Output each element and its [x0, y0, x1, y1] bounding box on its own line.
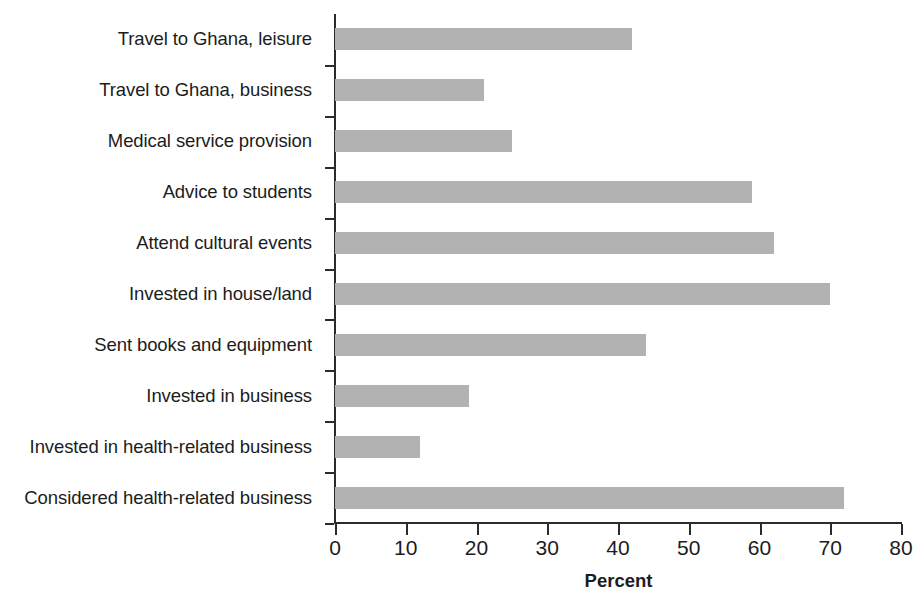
y-axis-tick: [325, 269, 334, 271]
bar: [335, 487, 844, 509]
bar: [335, 232, 774, 254]
bar-row: [335, 370, 901, 421]
bar-row: [335, 14, 901, 65]
plot-area: [335, 14, 901, 523]
category-label: Advice to students: [0, 167, 322, 218]
bar: [335, 181, 752, 203]
x-axis-tick: [689, 524, 691, 535]
x-axis-tick: [901, 524, 903, 535]
y-axis-tick: [325, 421, 334, 423]
x-axis-tick-label: 30: [536, 536, 559, 560]
bar-row: [335, 65, 901, 116]
bar: [335, 283, 830, 305]
y-axis-tick: [325, 523, 334, 525]
bar-row: [335, 116, 901, 167]
x-axis-ticks: [335, 524, 902, 535]
bar: [335, 79, 484, 101]
bar-series: [335, 14, 901, 523]
x-axis-tick-label: 80: [889, 536, 912, 560]
category-label: Invested in house/land: [0, 269, 322, 320]
bar: [335, 28, 632, 50]
bar-row: [335, 421, 901, 472]
bar: [335, 334, 646, 356]
x-axis-tick: [477, 524, 479, 535]
bar-row: [335, 472, 901, 523]
x-axis-tick-label: 50: [677, 536, 700, 560]
x-axis-tick: [760, 524, 762, 535]
y-axis-tick: [325, 218, 334, 220]
bar-chart: Travel to Ghana, leisureTravel to Ghana,…: [0, 0, 922, 599]
category-label: Sent books and equipment: [0, 319, 322, 370]
x-axis-tick-label: 60: [748, 536, 771, 560]
category-label: Medical service provision: [0, 116, 322, 167]
y-axis-tick: [325, 370, 334, 372]
y-axis-tick: [325, 319, 334, 321]
bar-row: [335, 218, 901, 269]
bar: [335, 385, 469, 407]
bar: [335, 436, 420, 458]
category-label: Invested in business: [0, 370, 322, 421]
x-axis-tick-label: 40: [606, 536, 629, 560]
x-axis-tick: [335, 524, 337, 535]
y-axis-tick: [325, 472, 334, 474]
x-axis-title: Percent: [335, 570, 902, 592]
x-axis-tick-label: 70: [819, 536, 842, 560]
x-axis-tick-label: 0: [329, 536, 341, 560]
x-axis-tick: [406, 524, 408, 535]
bar-row: [335, 167, 901, 218]
category-label: Considered health-related business: [0, 472, 322, 523]
x-axis-tick-label: 10: [394, 536, 417, 560]
y-axis-tick: [325, 65, 334, 67]
y-axis-tick: [325, 167, 334, 169]
bar-row: [335, 269, 901, 320]
category-label: Travel to Ghana, leisure: [0, 14, 322, 65]
bar-row: [335, 319, 901, 370]
x-axis-tick-label: 20: [465, 536, 488, 560]
y-axis-tick: [325, 116, 334, 118]
bar: [335, 130, 512, 152]
category-axis-labels: Travel to Ghana, leisureTravel to Ghana,…: [0, 14, 322, 523]
x-axis-tick: [830, 524, 832, 535]
x-axis-tick: [547, 524, 549, 535]
category-label: Attend cultural events: [0, 218, 322, 269]
category-label: Invested in health-related business: [0, 421, 322, 472]
x-axis-tick: [618, 524, 620, 535]
category-label: Travel to Ghana, business: [0, 65, 322, 116]
x-axis-tick-labels: 01020304050607080: [0, 536, 922, 566]
